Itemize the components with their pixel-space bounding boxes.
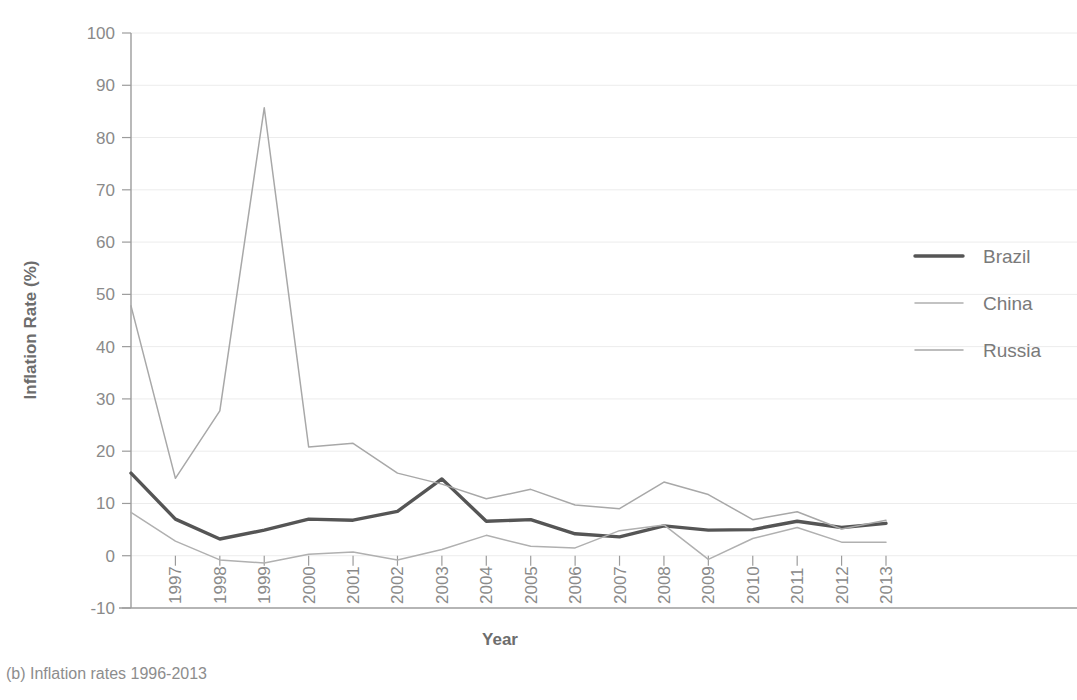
y-tick-label: 30 [96, 390, 115, 409]
x-tick-label: 2003 [433, 566, 452, 604]
inflation-rate-line-chart: -100102030405060708090100 19971998199920… [0, 0, 1077, 700]
figure-caption: (b) Inflation rates 1996-2013 [6, 665, 207, 683]
x-tick-label: 2013 [877, 566, 896, 604]
x-tick-label: 2001 [344, 566, 363, 604]
x-axis-tick-labels: 1997199819992000200120022003200420052006… [166, 566, 896, 604]
legend-label-brazil: Brazil [983, 246, 1031, 267]
y-tick-label: 10 [96, 494, 115, 513]
x-tick-label: 2008 [655, 566, 674, 604]
legend-label-russia: Russia [983, 340, 1042, 361]
y-tick-label: 60 [96, 233, 115, 252]
x-tick-label: 2000 [300, 566, 319, 604]
y-tick-label: -10 [90, 599, 115, 618]
y-tick-label: 50 [96, 285, 115, 304]
y-tick-label: 80 [96, 129, 115, 148]
y-tick-label: 0 [106, 547, 115, 566]
chart-canvas: -100102030405060708090100 19971998199920… [0, 0, 1077, 660]
gridlines-group [131, 33, 1077, 556]
series-line-brazil [131, 473, 886, 539]
legend-label-china: China [983, 293, 1033, 314]
x-tick-label: 2006 [566, 566, 585, 604]
y-axis-title: Inflation Rate (%) [21, 261, 40, 400]
x-tick-label: 1998 [211, 566, 230, 604]
chart-legend: BrazilChinaRussia [915, 246, 1042, 361]
x-tick-label: 2010 [744, 566, 763, 604]
x-tick-label: 2002 [388, 566, 407, 604]
x-axis-ticks-group [175, 556, 886, 566]
y-axis-ticks-group [122, 33, 131, 608]
y-tick-label: 70 [96, 181, 115, 200]
y-tick-label: 20 [96, 442, 115, 461]
x-tick-label: 2011 [788, 567, 807, 604]
series-line-russia [131, 108, 886, 529]
y-tick-label: 90 [96, 76, 115, 95]
x-tick-label: 2004 [477, 566, 496, 604]
x-axis-title: Year [482, 630, 518, 649]
x-tick-label: 2009 [699, 566, 718, 604]
x-tick-label: 2005 [522, 566, 541, 604]
y-axis-tick-labels: -100102030405060708090100 [87, 24, 115, 618]
x-tick-label: 1999 [255, 566, 274, 604]
x-tick-label: 1997 [166, 566, 185, 604]
y-tick-label: 40 [96, 338, 115, 357]
x-tick-label: 2012 [833, 566, 852, 604]
x-tick-label: 2007 [611, 566, 630, 604]
y-tick-label: 100 [87, 24, 115, 43]
series-lines-group [131, 108, 886, 563]
